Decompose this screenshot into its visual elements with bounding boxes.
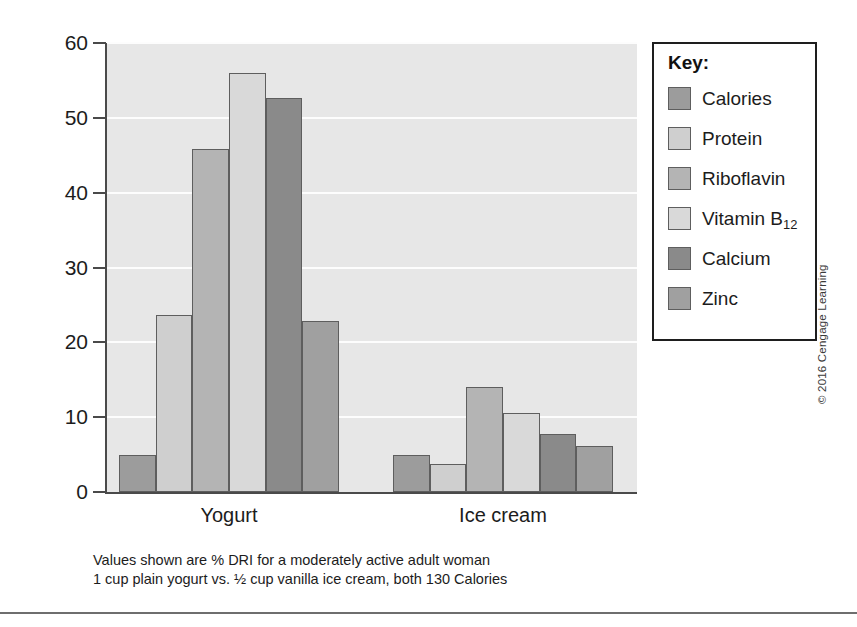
legend-rows: CaloriesProteinRiboflavinVitamin B12Calc… [668,79,815,319]
y-axis-tick-label: 20 [28,331,88,352]
bar-calcium [266,98,303,492]
bar-calories [393,455,430,492]
bar-vitamin-b12 [503,413,540,492]
legend-swatch-icon [668,167,691,190]
y-axis-tick-label: 10 [28,406,88,427]
figure-container: 6050403020100 YogurtIce cream Values sho… [0,0,857,627]
caption-line-2: 1 cup plain yogurt vs. ½ cup vanilla ice… [93,570,507,589]
y-axis-line [105,43,107,494]
legend-box: Key: CaloriesProteinRiboflavinVitamin B1… [652,42,817,341]
x-axis-label-yogurt: Yogurt [119,505,339,525]
bar-riboflavin [466,387,503,492]
y-axis-tick [93,416,106,418]
y-axis-tick-label: 0 [28,481,88,502]
y-axis-tick-label: 60 [28,32,88,53]
caption-line-1: Values shown are % DRI for a moderately … [93,551,507,570]
bar-riboflavin [192,149,229,492]
chart-caption: Values shown are % DRI for a moderately … [93,551,507,589]
legend-item-label: Vitamin B12 [702,209,797,228]
y-axis-tick-labels: 6050403020100 [14,0,88,560]
legend-item-protein: Protein [668,119,815,159]
legend-swatch-icon [668,127,691,150]
legend-item-label: Riboflavin [702,169,785,188]
y-axis-tick [93,42,106,44]
legend-swatch-icon [668,87,691,110]
legend-item-vitamin-b: Vitamin B12 [668,199,815,239]
y-axis-tick-label: 50 [28,107,88,128]
bar-vitamin-b12 [229,73,266,492]
legend-item-label: Calcium [702,249,771,268]
bars-layer [107,43,637,492]
bar-zinc [302,321,339,492]
copyright-notice: © 2016 Cengage Learning [816,264,828,404]
legend-item-calories: Calories [668,79,815,119]
y-axis-tick-label: 30 [28,257,88,278]
bar-protein [156,315,193,492]
legend-item-label: Zinc [702,289,738,308]
bar-group-yogurt [119,43,339,492]
x-axis-label-ice-cream: Ice cream [393,505,613,525]
legend-title: Key: [668,53,815,73]
y-axis-tick [93,117,106,119]
y-axis-tick [93,341,106,343]
legend-swatch-icon [668,287,691,310]
legend-item-calcium: Calcium [668,239,815,279]
bar-calcium [540,434,577,492]
bar-zinc [576,446,613,492]
bar-group-ice-cream [393,43,613,492]
bar-calories [119,455,156,492]
legend-swatch-icon [668,247,691,270]
y-axis-tick [93,267,106,269]
legend-item-label: Calories [702,89,772,108]
legend-swatch-icon [668,207,691,230]
bottom-divider [0,612,857,614]
legend-item-label: Protein [702,129,762,148]
legend-item-zinc: Zinc [668,279,815,319]
plot-area [107,43,637,494]
y-axis-tick [93,491,106,493]
y-axis-tick-label: 40 [28,182,88,203]
y-axis-tick [93,192,106,194]
bar-protein [430,464,467,492]
legend-item-riboflavin: Riboflavin [668,159,815,199]
